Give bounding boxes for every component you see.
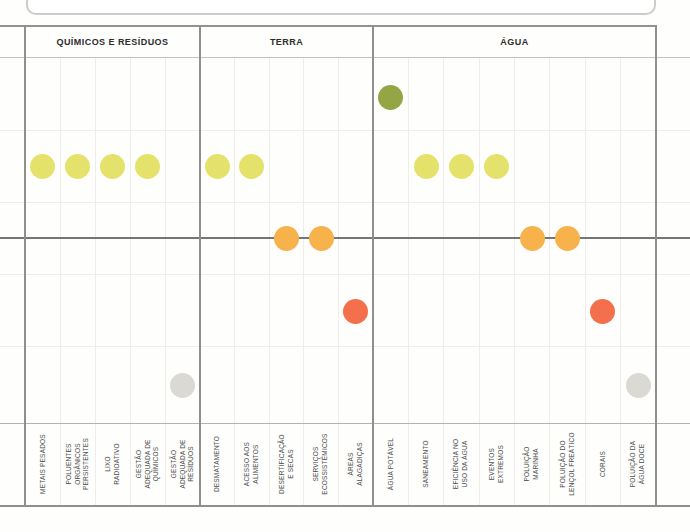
axis-label: DESERTIFICAÇÃO E SECAS xyxy=(269,426,305,502)
status-dot xyxy=(274,226,299,251)
grid-line-horizontal xyxy=(0,130,690,131)
status-dot xyxy=(484,154,509,179)
axis-label: GESTÃO ADEQUADA DE RESÍDUOS xyxy=(165,426,201,502)
grid-line-horizontal xyxy=(0,202,690,203)
axis-label: ACESSO AOS ALIMENTOS xyxy=(234,426,270,502)
chart-area: QUÍMICOS E RESÍDUOSMETAIS PESADOSPOLUENT… xyxy=(0,0,690,532)
status-dot xyxy=(205,154,230,179)
header-bottom-line xyxy=(0,57,690,58)
status-dot xyxy=(135,154,160,179)
axis-label: GESTÃO ADEQUADA DE QUÍMICOS xyxy=(130,426,166,502)
status-dot xyxy=(309,226,334,251)
label-band-bottom-line xyxy=(0,505,690,507)
axis-label: CORAIS xyxy=(585,426,621,502)
status-dot xyxy=(414,154,439,179)
axis-label: EFICIÊNCIA NO USO DA ÁGUA xyxy=(443,426,479,502)
status-dot xyxy=(170,373,195,398)
axis-label: ÁREAS ALAGADIÇAS xyxy=(338,426,374,502)
status-dot xyxy=(239,154,264,179)
axis-label: ÁGUA POTÁVEL xyxy=(373,426,409,502)
axis-label: EVENTOS EXTREMOS xyxy=(479,426,515,502)
axis-label: SERVIÇOS ECOSSISTÊMICOS xyxy=(303,426,339,502)
grid-line-horizontal xyxy=(0,274,690,275)
axis-label: POLUIÇÃO MARINHA xyxy=(514,426,550,502)
axis-label: SANEAMENTO xyxy=(408,426,444,502)
axis-label: METAIS PESADOS xyxy=(25,426,61,502)
group-header: TERRA xyxy=(200,26,373,57)
status-dot xyxy=(555,226,580,251)
group-header: ÁGUA xyxy=(373,26,656,57)
chart-canvas: QUÍMICOS E RESÍDUOSMETAIS PESADOSPOLUENT… xyxy=(0,0,690,532)
status-dot xyxy=(626,373,651,398)
status-dot xyxy=(100,154,125,179)
status-dot xyxy=(520,226,545,251)
plot-bottom-line xyxy=(0,423,690,424)
axis-label: POLUIÇÃO DO LENÇOL FREÁTICO xyxy=(550,426,586,502)
axis-label: POLUIÇÃO DA ÁGUA DOCE xyxy=(620,426,656,502)
status-dot xyxy=(590,299,615,324)
zero-line xyxy=(0,237,690,239)
status-dot xyxy=(378,85,403,110)
status-dot xyxy=(343,299,368,324)
top-panel-border xyxy=(26,0,656,15)
grid-line-horizontal xyxy=(0,346,690,347)
status-dot xyxy=(30,154,55,179)
group-header: QUÍMICOS E RESÍDUOS xyxy=(25,26,200,57)
axis-label: POLUENTES ORGÂNICOS PERSISTENTES xyxy=(60,426,96,502)
axis-label: LIXO RADIOATIVO xyxy=(95,426,131,502)
status-dot xyxy=(65,154,90,179)
axis-label: DESMATAMENTO xyxy=(199,426,235,502)
status-dot xyxy=(449,154,474,179)
